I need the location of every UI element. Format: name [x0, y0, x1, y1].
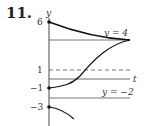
- initial-point-m3: [47, 105, 51, 109]
- initial-point-m1: [47, 86, 51, 90]
- tick-6: 6: [37, 17, 43, 27]
- solution-curve-m3: [49, 107, 74, 119]
- initial-point-6: [47, 20, 51, 24]
- phase-plot: y t 6 1 −1 −3 y = 4 y = −2: [0, 0, 152, 126]
- tick-m3: −3: [30, 102, 44, 112]
- tick-1: 1: [37, 65, 43, 75]
- label-y4: y = 4: [103, 28, 128, 38]
- tick-m1: −1: [30, 83, 43, 93]
- y-axis-label: y: [45, 8, 52, 18]
- label-y-2: y = −2: [101, 87, 134, 97]
- solution-curve-m1: [49, 40, 130, 88]
- t-axis-label: t: [133, 74, 137, 84]
